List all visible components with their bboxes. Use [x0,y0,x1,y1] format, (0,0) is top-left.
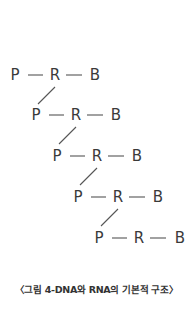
base-label: B [111,107,121,123]
ribose-label: R [113,189,123,205]
figure-caption: 〈그림 4-DNA와 RNA의 기본적 구조〉 [0,282,193,296]
ribose-label: R [92,148,102,164]
phosphate-label: P [31,107,40,123]
base-label: B [90,67,100,83]
base-label: B [132,148,142,164]
ribose-label: R [50,67,60,83]
phosphate-label: P [10,67,19,83]
phosphate-label: P [52,148,61,164]
base-label: B [153,189,163,205]
ribose-label: R [71,107,81,123]
phosphate-label: P [73,189,82,205]
nucleotide-chain-diagram: P R B P R B P R B P R B P R B 〈그림 4-DNA와… [0,0,193,333]
ribose-label: R [134,230,144,246]
phosphate-label: P [94,230,103,246]
base-label: B [175,230,185,246]
